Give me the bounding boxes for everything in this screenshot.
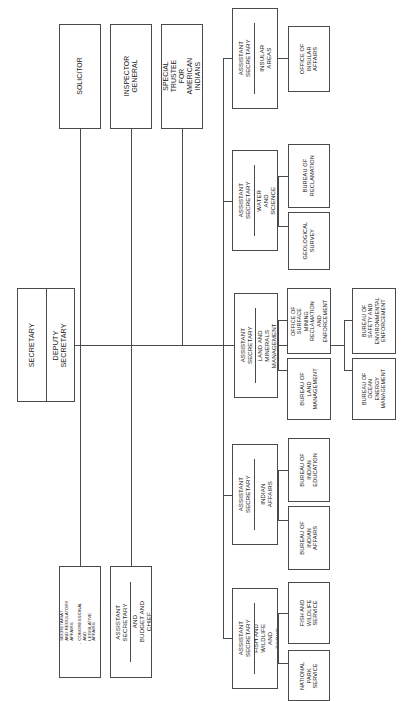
cfo-unit-cell: POLICY, MANAGEMENT, AND BUDGET AND CHIEF… (131, 567, 151, 677)
bureau-label: FISH AND WILDLIFE SERVICE (299, 593, 319, 633)
assistant-secretary-fish-and-wildlife-and-parks[interactable]: ASSISTANT SECRETARY FISH AND WILDLIFE AN… (232, 588, 278, 689)
as-fwp-title: ASSISTANT SECRETARY (237, 620, 251, 658)
bullet-item: - EXECUTIVE SECRETARIAT AND REGULATORY A… (59, 600, 75, 644)
bureau-label: BUREAU OF LAND MANAGEMENT (299, 368, 319, 410)
connector-special-trustee (182, 129, 183, 346)
bullet-dash: - (100, 643, 101, 644)
cfo-title-cell: ASSISTANT SECRETARY (111, 567, 131, 677)
bullet-item: - CONGRESSIONAL AND LEGISLATIVE AFFAIRS (78, 600, 98, 644)
support-bullet-list: - EXECUTIVE SECRETARIAT AND REGULATORY A… (59, 600, 101, 644)
bureau-label: BUREAU OF RECLAMATION (302, 155, 315, 196)
bureau-label: OFFICE OF INSULAR AFFAIRS (299, 39, 319, 79)
as-title-cell: ASSISTANT SECRETARY (233, 151, 255, 250)
connector-bia (278, 520, 288, 521)
connector-cfo-box (131, 345, 132, 566)
assistant-secretary-spine (223, 58, 224, 638)
connector-geological-survey (278, 226, 288, 227)
bullet-label: CONGRESSIONAL AND LEGISLATIVE AFFAIRS (78, 600, 98, 641)
connector-blm (278, 370, 287, 371)
org-chart-canvas: SECRETARY DEPUTY SECRETARY SOLICITOR INS… (0, 0, 419, 701)
connector-bie (278, 470, 288, 471)
subbureau-spine (344, 320, 345, 370)
bullet-item: - COMMUNICATIONS (100, 600, 101, 644)
staff-office-solicitor[interactable]: SOLICITOR (59, 24, 101, 129)
root-secretary-box[interactable]: SECRETARY DEPUTY SECRETARY (17, 288, 75, 402)
as-title-cell: ASSISTANT SECRETARY (233, 445, 255, 544)
bureau-of-reclamation[interactable]: BUREAU OF RECLAMATION (288, 144, 330, 208)
stub-as-land-minerals (223, 345, 234, 346)
bureau-of-land-management[interactable]: BUREAU OF LAND MANAGEMENT (287, 358, 331, 420)
bullet-dash: - (78, 643, 83, 644)
bureau-label: BUREAU OF INDIAN AFFAIRS (299, 518, 319, 558)
as-title-cell: ASSISTANT SECRETARY (233, 9, 255, 108)
bureau-label: BUREAU OF INDIAN EDUCATION (299, 450, 319, 490)
deputy-secretary-cell: DEPUTY SECRETARY (46, 289, 75, 401)
sub-bureau-label: BUREAU OF OCEAN ENERGY MANAGEMENT (361, 368, 387, 410)
as-indian-title: ASSISTANT SECRETARY (237, 476, 251, 514)
deputy-secretary-label: DEPUTY SECRETARY (52, 323, 69, 367)
bureau-office-of-insular-affairs[interactable]: OFFICE OF INSULAR AFFAIRS (288, 26, 330, 92)
as-water-title: ASSISTANT SECRETARY (237, 182, 251, 220)
bullet-label: COMMUNICATIONS (100, 600, 101, 641)
as-indian-unit: INDIAN AFFAIRS (259, 481, 273, 507)
as-unit-cell: WATER AND SCIENCE (255, 151, 277, 250)
assistant-secretary-insular-areas[interactable]: ASSISTANT SECRETARY INSULAR AREAS (232, 8, 278, 109)
inspector-general-label: INSPECTOR GENERAL (123, 56, 139, 96)
assistant-secretary-water-and-science[interactable]: ASSISTANT SECRETARY WATER AND SCIENCE (232, 150, 278, 251)
as-unit-cell: LAND AND MINERALS MANAGEMENT (256, 294, 277, 397)
support-office-bullet-box[interactable]: - EXECUTIVE SECRETARIAT AND REGULATORY A… (59, 566, 101, 678)
assistant-secretary-land-and-minerals-management[interactable]: ASSISTANT SECRETARY LAND AND MINERALS MA… (234, 293, 278, 398)
as-insular-title: ASSISTANT SECRETARY (237, 40, 251, 78)
as-insular-unit: INSULAR AREAS (259, 45, 273, 72)
connector-bullet-box (80, 345, 81, 566)
cfo-unit-label: POLICY, MANAGEMENT, AND BUDGET AND CHIEF… (131, 599, 151, 645)
bureau-label: OFFICE OF SURFACE MINING RECLAMATION AND… (290, 300, 328, 343)
as-land-title: ASSISTANT SECRETARY (238, 327, 252, 365)
connector-water-science-bus (278, 176, 279, 226)
bureau-fish-and-wildlife-service[interactable]: FISH AND WILDLIFE SERVICE (288, 582, 330, 644)
connector-boem (344, 370, 352, 371)
bureau-ocean-energy-management[interactable]: BUREAU OF OCEAN ENERGY MANAGEMENT (352, 358, 396, 420)
bullet-label: EXECUTIVE SECRETARIAT AND REGULATORY AFF… (59, 600, 75, 641)
connector-indian-affairs-bus (278, 470, 279, 520)
as-title-cell: ASSISTANT SECRETARY (233, 589, 255, 688)
staff-office-special-trustee[interactable]: SPECIAL TRUSTEE FOR AMERICAN INDIANS (161, 24, 203, 129)
connector-osmre (278, 320, 287, 321)
bureau-geological-survey[interactable]: GEOLOGICAL SURVEY (288, 212, 330, 270)
cfo-title-label: ASSISTANT SECRETARY (114, 603, 129, 641)
connector-bureau-reclamation (278, 176, 288, 177)
bureau-label: GEOLOGICAL SURVEY (302, 221, 315, 261)
as-land-unit: LAND AND MINERALS MANAGEMENT (256, 323, 277, 368)
assistant-secretary-indian-affairs[interactable]: ASSISTANT SECRETARY INDIAN AFFAIRS (232, 444, 278, 545)
connector-fws (278, 613, 288, 614)
special-trustee-label: SPECIAL TRUSTEE FOR AMERICAN INDIANS (162, 56, 202, 96)
bullet-dash: - (59, 643, 60, 644)
bureau-national-park-service[interactable]: NATIONAL PARK SERVICE (288, 650, 330, 701)
bureau-of-indian-education[interactable]: BUREAU OF INDIAN EDUCATION (288, 438, 330, 502)
secretary-cell: SECRETARY (18, 289, 46, 401)
bureau-osm-reclamation-enforcement[interactable]: OFFICE OF SURFACE MINING RECLAMATION AND… (287, 288, 331, 354)
connector-nps (278, 663, 288, 664)
secretary-label: SECRETARY (28, 323, 36, 367)
stub-as-water-science (223, 201, 232, 202)
connector-bsee (344, 320, 352, 321)
connector-fwp-bus (278, 613, 279, 663)
as-unit-cell: INDIAN AFFAIRS (255, 445, 277, 544)
as-water-unit: WATER AND SCIENCE (255, 187, 277, 215)
as-unit-cell: INSULAR AREAS (255, 9, 277, 108)
trunk-main-horizontal (75, 345, 233, 346)
stub-as-indian-affairs (223, 495, 232, 496)
support-office-cfo-box[interactable]: ASSISTANT SECRETARY POLICY, MANAGEMENT, … (110, 566, 152, 678)
bureau-safety-environmental-enforcement[interactable]: BUREAU OF SAFETY AND ENVIRONMENTAL ENFOR… (352, 288, 396, 354)
staff-office-inspector-general[interactable]: INSPECTOR GENERAL (110, 24, 152, 129)
as-title-cell: ASSISTANT SECRETARY (235, 294, 256, 397)
connector-inspector-general (131, 129, 132, 346)
solicitor-label: SOLICITOR (76, 56, 84, 96)
stub-as-insular (223, 58, 232, 59)
bureau-label: NATIONAL PARK SERVICE (299, 656, 319, 696)
stub-as-fish-wildlife (223, 638, 232, 639)
as-unit-cell: FISH AND WILDLIFE AND PARKS (255, 589, 277, 688)
sub-bureau-label: BUREAU OF SAFETY AND ENVIRONMENTAL ENFOR… (361, 297, 387, 344)
as-fwp-unit: FISH AND WILDLIFE AND PARKS (255, 624, 277, 653)
bureau-of-indian-affairs[interactable]: BUREAU OF INDIAN AFFAIRS (288, 506, 330, 570)
